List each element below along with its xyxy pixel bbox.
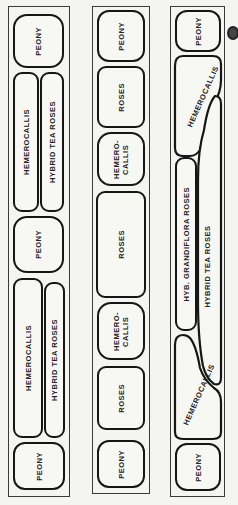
circle-marker-icon (227, 26, 238, 40)
curved-beds (0, 0, 238, 505)
bed-label: HYBRID TEA ROSES (203, 226, 212, 308)
